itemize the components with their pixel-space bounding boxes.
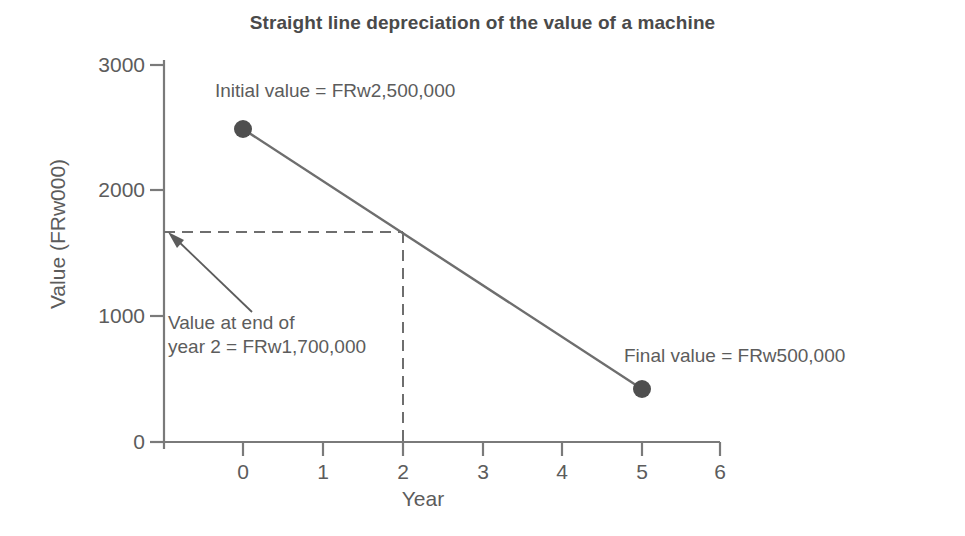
value-at-end-of-year-2-line-2: year 2 = FRw1,700,000 (168, 335, 366, 359)
final-value-annotation: Final value = FRw500,000 (624, 344, 845, 368)
depreciation-chart-figure: Straight line depreciation of the value … (0, 0, 965, 536)
value-at-end-of-year-2-line-1: Value at end of (168, 311, 366, 335)
data-point-initial-value (234, 120, 252, 138)
annotation-arrow-shaft (177, 240, 252, 312)
data-point-final-value (633, 380, 651, 398)
value-at-end-of-year-2-annotation: Value at end of year 2 = FRw1,700,000 (168, 311, 366, 360)
initial-value-annotation: Initial value = FRw2,500,000 (215, 79, 455, 103)
plot-area (0, 0, 965, 536)
